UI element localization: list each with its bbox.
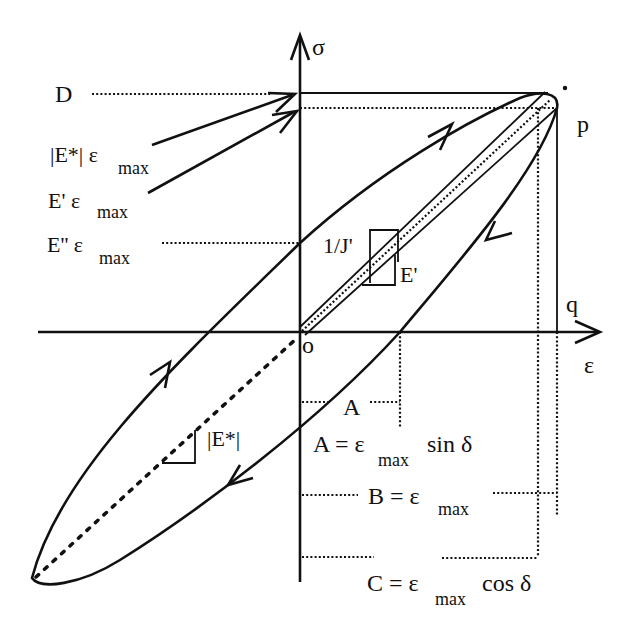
svg-text:sin δ: sin δ bbox=[421, 431, 472, 457]
q-point-label: q bbox=[566, 291, 578, 317]
e-double-prime-max-label: E'' ε bbox=[47, 232, 83, 257]
sigma-axis-label: σ bbox=[312, 34, 325, 60]
e-star-max-label: |E*| ε bbox=[50, 142, 98, 167]
e-prime-slope-label: E' bbox=[400, 262, 417, 287]
hysteresis-diagram: σ ε o p q D |E*| ε max E' ε max E'' ε ma… bbox=[0, 0, 633, 644]
svg-text:max: max bbox=[435, 589, 466, 609]
e-double-prime-max-sub: max bbox=[99, 248, 130, 268]
svg-text:max: max bbox=[378, 450, 409, 470]
corner-dot bbox=[563, 86, 567, 90]
e-prime-arrow bbox=[148, 111, 297, 193]
svg-text:A = ε: A = ε bbox=[313, 431, 365, 457]
e-star-max-sub: max bbox=[118, 158, 149, 178]
svg-text:C = ε: C = ε bbox=[367, 570, 419, 596]
d-label: D bbox=[55, 81, 72, 107]
c-equation: C = ε max cos δ bbox=[367, 570, 531, 609]
b-equation: B = ε max bbox=[368, 483, 469, 519]
e-prime-max-label: E' ε bbox=[48, 188, 80, 213]
e-star-arrow bbox=[152, 93, 295, 145]
svg-text:cos δ: cos δ bbox=[476, 570, 531, 596]
diagram-canvas: σ ε o p q D |E*| ε max E' ε max E'' ε ma… bbox=[0, 0, 633, 644]
a-short-label: A bbox=[343, 394, 361, 420]
e-star-slope-label: |E*| bbox=[207, 426, 240, 451]
epsilon-axis-label: ε bbox=[584, 352, 594, 378]
e-prime-max-sub: max bbox=[97, 202, 128, 222]
p-point-label: p bbox=[577, 111, 589, 137]
svg-text:B = ε: B = ε bbox=[368, 483, 420, 509]
a-equation: A = ε max sin δ bbox=[313, 431, 472, 470]
epsilon-axis bbox=[38, 321, 600, 343]
origin-label: o bbox=[302, 332, 314, 358]
inv-j-prime-label: 1/J' bbox=[323, 233, 353, 258]
svg-text:max: max bbox=[438, 499, 469, 519]
